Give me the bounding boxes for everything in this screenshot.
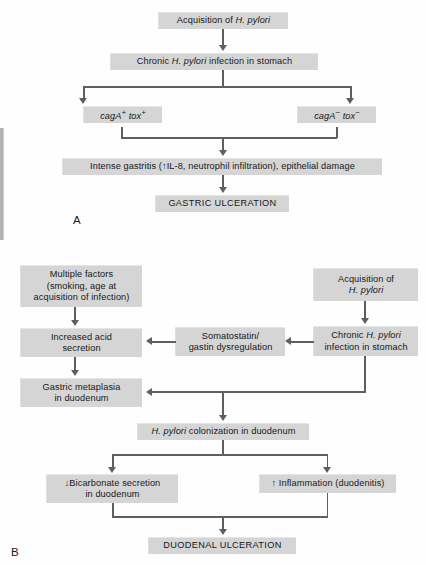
scan-edge-artifact [0, 128, 4, 240]
node-a-acquisition: Acquisition of H. pylori [158, 12, 288, 29]
node-b-multiple-factors-label: Multiple factors(smoking, age atacquisit… [26, 269, 137, 303]
node-b-chronic-infection-label: Chronic H. pyloriinfection in stomach [319, 330, 413, 353]
connector-b-somatostatin-acid [152, 341, 176, 343]
node-a-gastritis-label: Intense gastritis (↑IL-8, neutrophil inf… [68, 161, 377, 172]
node-a-chronic-infection: Chronic H. pylori infection in stomach [110, 53, 318, 70]
connector-b-bus-left [112, 454, 114, 468]
node-b-inflammation: ↑ Inflammation (duodenitis) [259, 474, 396, 493]
node-b-chronic-infection: Chronic H. pyloriinfection in stomach [313, 326, 418, 356]
node-b-somatostatin: Somatostatin/gastin dysregulation [175, 327, 285, 356]
arrowhead-a1-a2 [219, 45, 227, 51]
connector-b-bus-right [327, 454, 329, 468]
node-b-colonization: H. pylori colonization in duodenum [137, 423, 309, 440]
arrowhead-b-bus-inflammation [323, 467, 331, 473]
connector-b-factors-acid [74, 307, 76, 321]
connector-merge-bus [121, 137, 337, 139]
connector-b-merge-outcome [222, 516, 224, 530]
node-a-chronic-infection-label: Chronic H. pylori infection in stomach [116, 56, 313, 67]
connector-b-chronic-elbow-vertical [364, 356, 366, 392]
node-b-acquisition-label: Acquisition ofH. pylori [319, 274, 413, 297]
connector-b-chronic-elbow-horizontal [152, 391, 366, 393]
node-b-increased-acid-label: Increased acidsecretion [26, 332, 137, 355]
arrowhead-b-chronic-metaplasia [146, 388, 152, 396]
node-b-increased-acid: Increased acidsecretion [20, 328, 142, 357]
connector-b-merge-bus [112, 516, 328, 518]
connector-b-inflammation-merge [327, 493, 329, 517]
figure-canvas: Acquisition of H. pylori Chronic H. pylo… [0, 0, 426, 565]
arrowhead-b-acq-chronic [361, 318, 369, 324]
arrowhead-b-bus-bicarbonate [108, 467, 116, 473]
arrowhead-a2-cagneg [346, 98, 354, 104]
node-b-colonization-label: H. pylori colonization in duodenum [143, 426, 304, 437]
arrowhead-merge-gastritis [219, 150, 227, 156]
connector-b-colonization-bus-stem [222, 440, 224, 455]
node-b-outcome: DUODENAL ULCERATION [148, 537, 296, 554]
arrowhead-a2-cagpos [79, 98, 87, 104]
connector-a1-a2 [222, 29, 224, 46]
connector-a2-bus-stem [222, 70, 224, 87]
arrowhead-b-factors-acid [71, 320, 79, 326]
node-b-outcome-label: DUODENAL ULCERATION [154, 540, 291, 551]
connector-b-acid-metaplasia [74, 357, 76, 371]
arrowhead-b-elbow-colonization [219, 415, 227, 421]
node-a-gastritis: Intense gastritis (↑IL-8, neutrophil inf… [62, 158, 382, 175]
node-b-bicarbonate-label: ↓Bicarbonate secretionin duodenum [52, 478, 173, 501]
node-a-outcome: GASTRIC ULCERATION [155, 195, 289, 212]
arrowhead-b-merge-outcome [219, 529, 227, 535]
connector-merge-to-gastritis [222, 137, 224, 151]
connector-b-acq-chronic [364, 301, 366, 319]
node-a-outcome-label: GASTRIC ULCERATION [161, 198, 284, 209]
arrowhead-gastritis-outcome [219, 187, 227, 193]
node-a-caga-negative-label: cagA− tox− [303, 107, 371, 122]
node-a-caga-positive: cagA+ tox+ [83, 106, 162, 123]
node-b-inflammation-label: ↑ Inflammation (duodenitis) [265, 478, 391, 489]
arrowhead-b-chronic-somatostatin [285, 337, 291, 345]
arrowhead-b-acid-metaplasia [71, 370, 79, 376]
connector-a2-bus [83, 86, 351, 88]
panel-letter-b: B [11, 546, 19, 558]
node-b-multiple-factors: Multiple factors(smoking, age atacquisit… [20, 265, 142, 307]
node-b-gastric-metaplasia-label: Gastric metaplasiain duodenum [26, 382, 137, 405]
node-b-acquisition: Acquisition ofH. pylori [313, 268, 418, 301]
connector-b-elbow-colonization [222, 391, 224, 416]
node-b-gastric-metaplasia: Gastric metaplasiain duodenum [20, 378, 142, 407]
arrowhead-b-somatostatin-acid [146, 337, 152, 345]
connector-b-bicarbonate-merge [112, 503, 114, 517]
node-a-acquisition-label: Acquisition of H. pylori [164, 15, 283, 26]
node-b-bicarbonate: ↓Bicarbonate secretionin duodenum [46, 474, 178, 503]
connector-b-colonization-bus [112, 454, 328, 456]
node-a-caga-positive-label: cagA+ tox+ [89, 107, 157, 122]
node-b-somatostatin-label: Somatostatin/gastin dysregulation [181, 331, 280, 354]
connector-b-chronic-somatostatin [291, 341, 314, 343]
panel-letter-a: A [73, 214, 81, 226]
node-a-caga-negative: cagA− tox− [297, 106, 376, 123]
